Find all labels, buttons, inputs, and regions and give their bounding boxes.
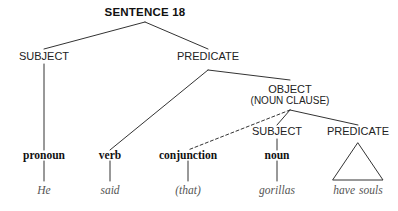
node-subject-inner: SUBJECT: [252, 126, 302, 138]
syntax-tree-diagram: SENTENCE 18 SUBJECT PREDICATE OBJECT (NO…: [0, 0, 398, 211]
node-subject-top: SUBJECT: [19, 51, 69, 63]
edge-root-predicate: [145, 22, 208, 49]
edge-root-subject: [44, 22, 145, 49]
node-pos-conjunction: conjunction: [159, 149, 217, 161]
node-object-label: OBJECT: [268, 83, 311, 95]
edge-predicate-verb: [110, 70, 208, 150]
node-object: OBJECT (NOUN CLAUSE): [251, 84, 330, 106]
word-souls: souls: [359, 184, 383, 196]
node-root-sentence: SENTENCE 18: [105, 6, 186, 18]
word-gorillas: gorillas: [259, 184, 295, 196]
predicate-triangle: [333, 143, 383, 180]
word-he: He: [37, 184, 50, 196]
node-pos-verb: verb: [99, 149, 121, 161]
node-pos-pronoun: pronoun: [23, 149, 65, 161]
word-have-souls: havesouls: [333, 184, 382, 196]
tree-edges: [0, 0, 398, 211]
node-object-sublabel: (NOUN CLAUSE): [251, 96, 330, 107]
word-have: have: [333, 184, 355, 196]
word-that: (that): [175, 184, 201, 196]
node-predicate-top: PREDICATE: [177, 51, 239, 63]
edge-object-predicate: [290, 110, 358, 125]
node-predicate-inner: PREDICATE: [327, 126, 389, 138]
edge-predicate-object: [208, 70, 290, 80]
word-said: said: [100, 184, 119, 196]
node-pos-noun: noun: [265, 149, 290, 161]
